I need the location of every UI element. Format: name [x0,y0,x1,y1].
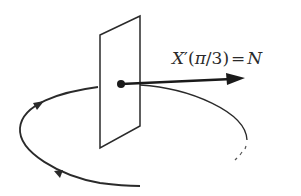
curve-right-segment [140,85,247,140]
diagram-canvas: X′(π/3)=N [0,0,301,196]
curve-point [117,80,125,88]
tangent-vector-arrowhead-icon [226,73,245,85]
vector-label: X′(π/3)=N [170,48,263,68]
orientation-arrow-lower-icon [54,170,63,178]
orientation-arrow-upper-icon [33,101,44,110]
curve-dashed-fade [235,146,246,160]
